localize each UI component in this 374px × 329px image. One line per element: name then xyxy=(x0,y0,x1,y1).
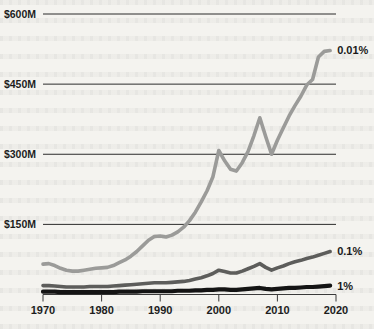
data-series-lines xyxy=(43,50,330,292)
series-line-001pct xyxy=(43,50,330,271)
x-tick-label: 1990 xyxy=(148,304,172,316)
gridlines xyxy=(43,14,336,224)
y-axis-tick-labels: $600M$450M$300M$150M xyxy=(4,8,36,230)
x-tick-label: 2010 xyxy=(265,304,289,316)
y-tick-label: $150M xyxy=(4,218,36,230)
series-end-labels: 0.01%0.1%1% xyxy=(337,44,368,291)
y-tick-label: $600M xyxy=(4,8,36,20)
y-tick-label: $300M xyxy=(4,148,36,160)
x-tick-label: 1980 xyxy=(89,304,113,316)
series-label-001pct: 0.01% xyxy=(337,44,368,56)
line-chart: $600M$450M$300M$150M 1970198019902000201… xyxy=(0,0,374,329)
chart-container: $600M$450M$300M$150M 1970198019902000201… xyxy=(0,0,374,329)
x-axis-tick-labels: 197019801990200020102020 xyxy=(31,304,348,316)
series-label-1pct: 1% xyxy=(337,280,353,292)
x-tick-label: 2000 xyxy=(207,304,231,316)
series-label-01pct: 0.1% xyxy=(337,245,362,257)
y-tick-label: $450M xyxy=(4,78,36,90)
x-axis-tick-marks xyxy=(43,295,336,302)
x-tick-label: 2020 xyxy=(324,304,348,316)
x-tick-label: 1970 xyxy=(31,304,55,316)
